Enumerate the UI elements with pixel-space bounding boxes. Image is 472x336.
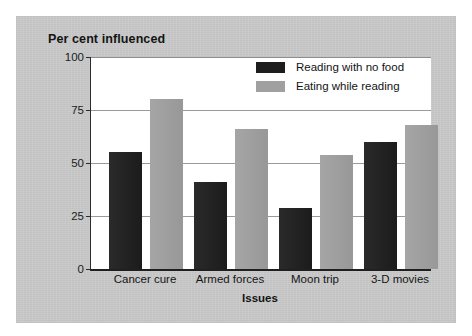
chart-title: Per cent influenced: [48, 32, 165, 46]
x-tick-label-cancer-cure: Cancer cure: [114, 273, 177, 285]
bar-armed-forces-reading-with-no-food: [194, 182, 227, 269]
bar-armed-forces-eating-while-reading: [235, 129, 268, 269]
bar-moon-trip-eating-while-reading: [320, 155, 353, 270]
y-tick-label: 0: [78, 263, 84, 275]
plot-area: Reading with no food Eating while readin…: [90, 57, 431, 271]
x-tick-label-moon-trip: Moon trip: [291, 273, 339, 285]
gridline-100: [91, 57, 431, 58]
legend-label: Reading with no food: [296, 61, 404, 73]
bar-3d-movies-reading-with-no-food: [364, 142, 397, 269]
bar-cancer-cure-eating-while-reading: [150, 99, 183, 269]
legend-label: Eating while reading: [296, 80, 400, 92]
bar-3d-movies-eating-while-reading: [405, 125, 438, 269]
legend-swatch-light: [256, 81, 285, 92]
y-tick-label: 100: [65, 51, 84, 63]
y-tick-label: 75: [71, 104, 84, 116]
gridline-75: [91, 110, 431, 111]
bar-moon-trip-reading-with-no-food: [279, 208, 312, 270]
legend-swatch-dark: [256, 62, 285, 73]
y-tick-label: 25: [71, 210, 84, 222]
chart-legend: Reading with no food Eating while readin…: [256, 60, 404, 93]
chart-figure: Per cent influenced 100 75 50 25 0: [0, 0, 472, 336]
x-tick-label-3d-movies: 3-D movies: [371, 273, 429, 285]
x-tick-label-armed-forces: Armed forces: [196, 273, 264, 285]
bar-cancer-cure-reading-with-no-food: [109, 152, 142, 269]
x-axis-title: Issues: [90, 292, 430, 304]
chart-panel: Per cent influenced 100 75 50 25 0: [17, 17, 455, 322]
legend-item-eating-while-reading: Eating while reading: [256, 79, 404, 93]
legend-item-reading-with-no-food: Reading with no food: [256, 60, 404, 74]
y-tick-label: 50: [71, 157, 84, 169]
